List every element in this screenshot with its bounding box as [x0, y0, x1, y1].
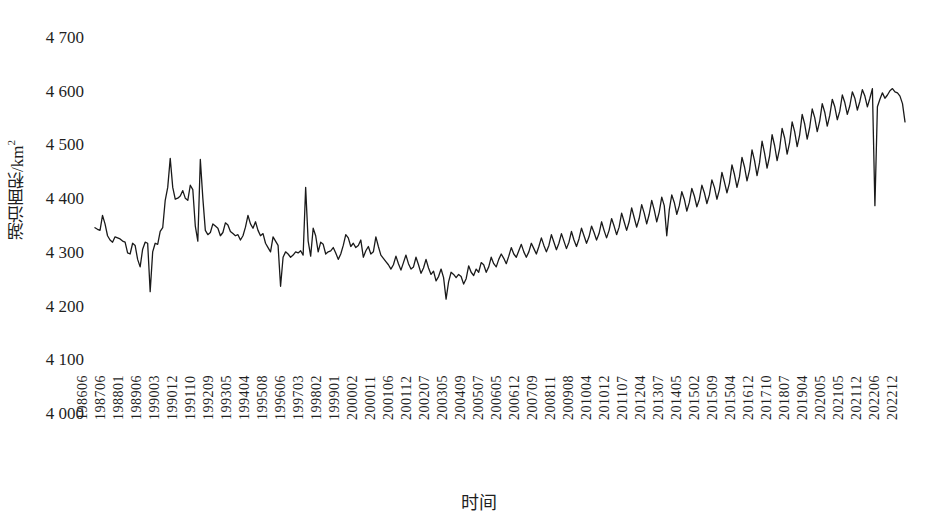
x-tick-label: 198906 — [130, 375, 144, 420]
x-tick-label: 199508 — [256, 375, 270, 420]
x-tick-label: 200507 — [472, 375, 486, 420]
x-tick-label: 201509 — [706, 375, 720, 420]
x-tick-label: 201710 — [760, 375, 774, 420]
x-tick-label: 201012 — [598, 375, 612, 420]
x-tick-label: 200112 — [400, 376, 414, 420]
x-tick-label: 201204 — [634, 375, 648, 420]
x-tick-label: 200908 — [562, 375, 576, 420]
x-tick-label: 201307 — [652, 375, 666, 420]
x-tick-label: 198606 — [76, 375, 90, 420]
chart-figure: 湖泊面积/km2 4 0004 1004 2004 3004 4004 5004… — [0, 0, 928, 531]
x-tick-label: 200811 — [544, 376, 558, 420]
x-tick-label: 199209 — [202, 375, 216, 420]
x-tick-label: 200011 — [364, 376, 378, 420]
x-tick-label: 202005 — [814, 375, 828, 420]
x-tick-label: 201502 — [688, 375, 702, 420]
x-tick-label: 198801 — [112, 375, 126, 420]
x-tick-label: 202105 — [832, 375, 846, 420]
x-tick-label: 200207 — [418, 375, 432, 420]
x-tick-label: 200409 — [454, 375, 468, 420]
x-axis-title: 时间 — [0, 488, 928, 514]
x-tick-label: 199901 — [328, 375, 342, 420]
x-tick-label: 201004 — [580, 375, 594, 420]
x-tick-label: 199003 — [148, 375, 162, 420]
x-tick-label: 199802 — [310, 375, 324, 420]
x-tick-label: 199703 — [292, 375, 306, 420]
x-tick-label: 199606 — [274, 375, 288, 420]
x-tick-label: 202112 — [850, 376, 864, 420]
footer-sliver — [560, 524, 920, 531]
x-tick-label: 201807 — [778, 375, 792, 420]
x-tick-label: 199110 — [184, 376, 198, 420]
x-tick-label: 199305 — [220, 375, 234, 420]
x-tick-label: 200305 — [436, 375, 450, 420]
x-tick-label: 201904 — [796, 375, 810, 420]
x-tick-label: 202206 — [868, 375, 882, 420]
x-tick-label: 201504 — [724, 375, 738, 420]
x-axis-title-text: 时间 — [461, 493, 497, 513]
x-tick-label: 200605 — [490, 375, 504, 420]
x-tick-label: 201612 — [742, 375, 756, 420]
x-axis-tick-labels: 1986061987061988011989061990031990121991… — [0, 0, 928, 531]
x-tick-label: 201405 — [670, 375, 684, 420]
x-tick-label: 201107 — [616, 376, 630, 420]
x-tick-label: 202212 — [886, 375, 900, 420]
x-tick-label: 200612 — [508, 375, 522, 420]
x-tick-label: 200709 — [526, 375, 540, 420]
x-tick-label: 199012 — [166, 375, 180, 420]
x-tick-label: 198706 — [94, 375, 108, 420]
x-tick-label: 200106 — [382, 375, 396, 420]
x-tick-label: 199404 — [238, 375, 252, 420]
x-tick-label: 200002 — [346, 375, 360, 420]
